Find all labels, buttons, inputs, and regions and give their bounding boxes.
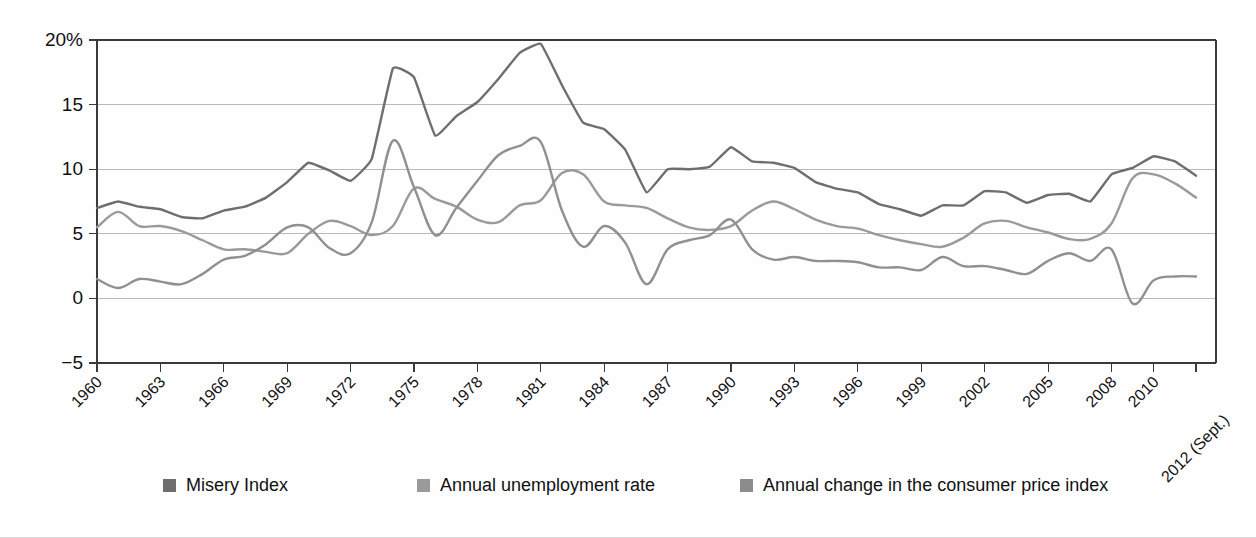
- y-tick-label: 15: [62, 94, 83, 115]
- x-tick-label: 1978: [448, 373, 485, 410]
- x-tick-label: 1960: [68, 373, 105, 410]
- series-line-2: [97, 138, 1196, 305]
- chart-legend: Misery Index Annual unemployment rate An…: [0, 468, 1256, 502]
- legend-label-unemployment-rate: Annual unemployment rate: [440, 475, 655, 496]
- series-line-0: [97, 44, 1196, 219]
- y-axis-ticks: [89, 40, 97, 363]
- chart-figure: −505101520% 1960196319661969197219751978…: [0, 0, 1256, 538]
- x-tick-label: 1963: [131, 373, 168, 410]
- x-tick-label: 1999: [892, 373, 929, 410]
- legend-swatch-unemployment-rate: [417, 479, 430, 492]
- y-tick-label: 0: [72, 287, 83, 308]
- x-tick-label: 2010: [1125, 373, 1162, 410]
- x-tick-label: 1981: [512, 373, 549, 410]
- x-tick-label: 1996: [829, 373, 866, 410]
- y-tick-label: 20%: [45, 29, 83, 50]
- x-tick-label: 1984: [575, 373, 612, 410]
- x-tick-label: 1975: [385, 373, 422, 410]
- series-line-1: [97, 170, 1196, 254]
- y-tick-label: 5: [72, 223, 83, 244]
- x-tick-label: 2008: [1082, 373, 1119, 410]
- x-tick-label: 2002: [956, 373, 993, 410]
- y-axis-tick-labels: −505101520%: [45, 29, 83, 373]
- x-tick-label: 1990: [702, 373, 739, 410]
- x-tick-label: 2005: [1019, 373, 1056, 410]
- x-tick-label: 1969: [258, 373, 295, 410]
- legend-item-consumer-price-index[interactable]: Annual change in the consumer price inde…: [740, 475, 1108, 496]
- legend-item-misery-index[interactable]: Misery Index: [163, 475, 288, 496]
- x-tick-label: 1966: [195, 373, 232, 410]
- data-series-group: [97, 44, 1196, 305]
- axis-lines: [97, 40, 1216, 363]
- x-tick-label: 1987: [639, 373, 676, 410]
- x-axis-ticks: [97, 363, 1196, 372]
- legend-swatch-consumer-price-index: [740, 479, 753, 492]
- legend-swatch-misery-index: [163, 479, 176, 492]
- legend-label-consumer-price-index: Annual change in the consumer price inde…: [763, 475, 1108, 496]
- chart-canvas: −505101520% 1960196319661969197219751978…: [0, 0, 1256, 538]
- legend-item-unemployment-rate[interactable]: Annual unemployment rate: [417, 475, 655, 496]
- x-tick-label: 1972: [322, 373, 359, 410]
- legend-label-misery-index: Misery Index: [186, 475, 288, 496]
- y-tick-label: −5: [61, 352, 83, 373]
- y-tick-label: 10: [62, 158, 83, 179]
- x-tick-label: 1993: [765, 373, 802, 410]
